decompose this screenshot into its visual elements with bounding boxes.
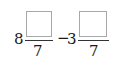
term2-numerator-input[interactable]	[79, 11, 107, 37]
term1-whole: 8	[14, 32, 24, 47]
term1-denominator: 7	[33, 44, 43, 59]
term2-whole: 3	[67, 32, 77, 47]
term1-fraction-bar	[25, 40, 53, 41]
term1-numerator-input[interactable]	[26, 11, 52, 37]
term2-fraction-bar	[78, 40, 109, 41]
term2-denominator: 7	[89, 44, 99, 59]
